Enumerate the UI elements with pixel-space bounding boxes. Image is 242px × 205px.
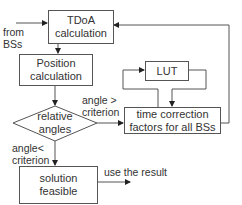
- position-calculation-box: Position calculation: [19, 54, 93, 86]
- lut-label: LUT: [157, 65, 178, 78]
- tdoa-line2: calculation: [55, 27, 107, 40]
- decision-line2: angles: [25, 123, 85, 136]
- time-correction-line2: factors for all BSs: [129, 121, 215, 134]
- input-label: from BSs: [3, 26, 24, 50]
- solution-line1: solution: [40, 172, 78, 185]
- angle-lt-label: angle< criterion: [12, 142, 49, 166]
- angle-gt-label: angle > criterion: [82, 94, 119, 118]
- position-line1: Position: [36, 57, 75, 70]
- input-label-line2: BSs: [3, 38, 24, 50]
- output-label: use the result: [104, 166, 167, 178]
- solution-feasible-box: solution feasible: [19, 166, 98, 204]
- position-line2: calculation: [30, 70, 82, 83]
- tdoa-line1: TDoA: [67, 14, 95, 27]
- decision-label: relative angles: [25, 110, 85, 136]
- input-label-line1: from: [3, 26, 24, 38]
- decision-line1: relative: [25, 110, 85, 123]
- solution-line2: feasible: [40, 185, 78, 198]
- angle-lt-line2: criterion: [12, 154, 49, 166]
- time-correction-box: time correction factors for all BSs: [124, 107, 221, 134]
- lut-box: LUT: [145, 61, 189, 81]
- time-correction-line1: time correction: [136, 108, 208, 121]
- angle-gt-line2: criterion: [82, 106, 119, 118]
- tdoa-calculation-box: TDoA calculation: [48, 10, 114, 44]
- angle-lt-line1: angle<: [12, 142, 49, 154]
- angle-gt-line1: angle >: [82, 94, 119, 106]
